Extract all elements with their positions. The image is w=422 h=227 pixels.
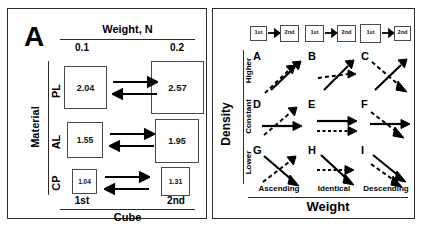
panel-b-left-axis-title: Density <box>219 79 233 169</box>
panel-a-bottom-axis-rule <box>60 209 195 210</box>
seq-box-second-identical: 2nd <box>337 25 356 42</box>
sequence-header-identical: 1st 2nd <box>305 21 357 45</box>
figure-container: A Weight, N 0.1 0.2 Material PL AL CP 2.… <box>0 0 422 227</box>
seq-arrow-icon <box>267 26 280 40</box>
cube-cp-second: 1.31 <box>161 167 190 196</box>
cube-pl-first: 2.04 <box>64 66 107 109</box>
panel-a-bottom-axis-title: Cube <box>60 211 195 223</box>
seq-arrow-icon <box>381 26 394 40</box>
cube-pl-second: 2.57 <box>151 61 204 114</box>
panel-a-top-axis-title: Weight, N <box>60 23 195 35</box>
cell-c-arrows <box>369 56 413 96</box>
cell-label-a: A <box>253 50 261 62</box>
seq-box-first-descending: 1st <box>360 24 381 43</box>
cell-a-arrows <box>261 56 305 96</box>
panel-b-cell-d: D <box>253 100 306 144</box>
panel-a-letter: A <box>24 23 44 51</box>
panel-b-density-tick-constant: Constant <box>244 91 253 143</box>
sequence-header-descending: 1st 2nd <box>360 21 412 45</box>
panel-b-sequence-headers: 1st 2nd 1st 2nd 1st <box>250 21 410 45</box>
exchange-arrows-al <box>109 127 155 153</box>
cube-al-first: 1.55 <box>67 122 103 158</box>
cell-label-h: H <box>308 144 316 156</box>
panel-a-cube-tick-1st: 1st <box>62 195 102 206</box>
panel-a-material-tick-cp: CP <box>50 165 62 201</box>
cell-label-f: F <box>361 98 368 110</box>
panel-b-cell-f: F <box>361 100 414 144</box>
panel-b-cell-a: A <box>253 52 306 96</box>
panel-b-bottom-axis-title: Weight <box>248 199 408 214</box>
panel-a: A Weight, N 0.1 0.2 Material PL AL CP 2.… <box>7 8 207 219</box>
panel-b-cell-e: E <box>308 100 361 144</box>
cell-label-i: I <box>361 144 364 156</box>
exchange-arrows-pl <box>112 75 158 101</box>
seq-arrow-icon <box>324 26 337 40</box>
seq-box-first-ascending: 1st <box>250 26 267 41</box>
panel-a-material-tick-pl: PL <box>50 73 62 109</box>
cell-label-e: E <box>308 98 315 110</box>
panel-a-left-axis-rule <box>48 61 49 195</box>
cell-label-d: D <box>253 98 261 110</box>
seq-box-second-ascending: 2nd <box>280 25 299 42</box>
panel-a-top-axis-rule <box>60 39 195 40</box>
cell-d-arrows <box>261 104 305 144</box>
panel-b-cell-b: B <box>308 52 361 96</box>
cell-e-arrows <box>316 104 360 144</box>
panel-a-cube-tick-2nd: 2nd <box>156 195 196 206</box>
exchange-arrows-cp <box>104 170 150 196</box>
cell-label-c: C <box>361 50 369 62</box>
sequence-header-ascending: 1st 2nd <box>250 21 302 45</box>
seq-box-first-identical: 1st <box>305 25 324 42</box>
cube-cp-first: 1.04 <box>72 169 97 194</box>
cell-f-arrows <box>369 104 413 144</box>
cube-al-second: 1.95 <box>155 119 199 163</box>
panel-b-weight-tick-descending: Descending <box>355 184 417 193</box>
panel-b-weight-tick-ascending: Ascending <box>248 184 310 193</box>
panel-a-weight-tick-2: 0.2 <box>160 42 194 53</box>
panel-b-cell-c: C <box>361 52 414 96</box>
panel-a-left-axis-title: Material <box>29 87 41 167</box>
cell-label-b: B <box>308 50 316 62</box>
cell-b-arrows <box>316 56 360 96</box>
panel-a-weight-tick-1: 0.1 <box>65 42 99 53</box>
seq-box-second-descending: 2nd <box>394 26 411 41</box>
panel-b-density-tick-lower: Lower <box>244 137 253 189</box>
panel-b-bottom-axis-rule <box>248 197 408 198</box>
panel-b-density-tick-higher: Higher <box>244 45 253 97</box>
panel-a-material-tick-al: AL <box>50 124 62 160</box>
